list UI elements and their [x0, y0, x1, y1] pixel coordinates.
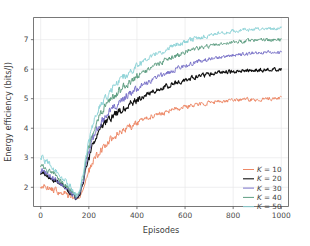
line-chart-svg: 02004006008001000234567 Episodes Energy … — [0, 0, 310, 246]
matplotlib-figure: 02004006008001000234567 Episodes Energy … — [0, 0, 310, 246]
y-tick-label: 7 — [24, 35, 29, 44]
y-tick-label: 3 — [24, 153, 29, 162]
y-tick-label: 6 — [24, 65, 29, 74]
y-axis-label: Energy efficiency (bits/J) — [3, 62, 13, 162]
legend-label-40: K = 40 — [257, 193, 282, 202]
axes-background — [34, 18, 289, 207]
y-tick-label: 4 — [24, 124, 29, 133]
x-tick-label: 0 — [38, 211, 43, 220]
x-tick-label: 200 — [82, 211, 96, 220]
chart-figure: 02004006008001000234567 Episodes Energy … — [0, 0, 310, 246]
legend-label-50: K = 50 — [257, 202, 282, 211]
x-tick-label: 600 — [178, 211, 192, 220]
legend-label-30: K = 30 — [257, 184, 282, 193]
y-tick-label: 2 — [24, 183, 29, 192]
legend-label-20: K = 20 — [257, 174, 282, 183]
x-tick-label: 800 — [226, 211, 240, 220]
legend-label-10: K = 10 — [257, 165, 282, 174]
x-tick-label: 400 — [130, 211, 144, 220]
y-tick-label: 5 — [24, 94, 29, 103]
x-axis-label: Episodes — [143, 225, 179, 235]
x-tick-label: 1000 — [272, 211, 291, 220]
